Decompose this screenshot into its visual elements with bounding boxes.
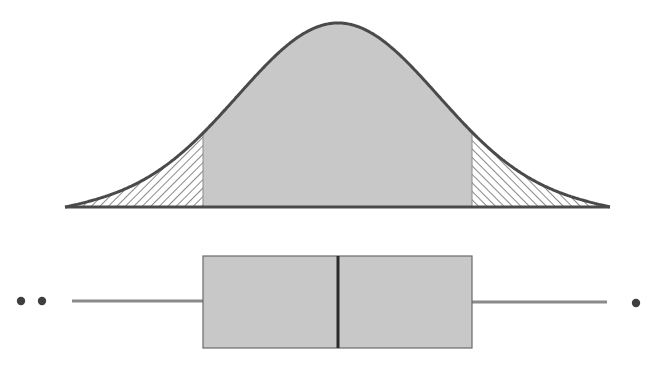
normal-curve	[65, 23, 610, 207]
left-tail-hatched-region	[65, 133, 203, 207]
center-shaded-region	[203, 23, 472, 207]
outlier-point-2	[38, 297, 46, 305]
distribution-boxplot-diagram	[0, 0, 665, 368]
box-plot	[17, 256, 640, 348]
outlier-point-3	[632, 299, 640, 307]
diagram-canvas	[0, 0, 665, 368]
outlier-point-1	[17, 297, 25, 305]
right-tail-hatched-region	[472, 132, 610, 207]
